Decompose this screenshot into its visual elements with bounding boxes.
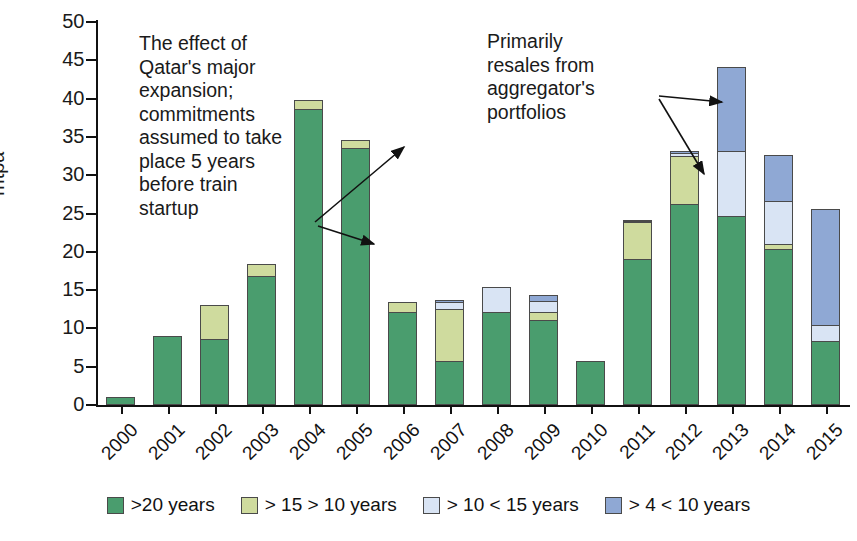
bar-segment[interactable] (717, 151, 746, 217)
bar-2012[interactable] (670, 151, 699, 405)
bar-2013[interactable] (717, 67, 746, 405)
bar-segment[interactable] (717, 216, 746, 405)
x-tick (403, 405, 405, 414)
x-tick (356, 405, 358, 414)
bar-segment[interactable] (388, 312, 417, 405)
chart-legend: >20 years> 15 > 10 years> 10 < 15 years>… (0, 494, 857, 516)
x-tick-label-2010: 2010 (560, 419, 612, 471)
stacked-bar-chart: mtpa 05101520253035404550 20002001200220… (0, 0, 857, 541)
bar-segment[interactable] (153, 336, 182, 405)
y-tick (86, 289, 97, 291)
x-tick (591, 405, 593, 414)
bar-2000[interactable] (106, 397, 135, 405)
x-tick-label-2008: 2008 (466, 419, 518, 471)
bar-segment[interactable] (576, 361, 605, 405)
y-tick (86, 404, 97, 406)
bar-segment[interactable] (247, 276, 276, 405)
x-tick-label-2006: 2006 (372, 419, 424, 471)
bar-segment[interactable] (764, 201, 793, 245)
legend-item-3[interactable]: > 4 < 10 years (605, 494, 750, 516)
y-tick (86, 251, 97, 253)
annotation-resales: Primarily resales from aggregator's port… (487, 30, 682, 124)
y-tick-label: 5 (46, 356, 84, 376)
x-tick (732, 405, 734, 414)
annotation-qatar-expansion: The effect of Qatar's major expansion; c… (139, 32, 354, 220)
bar-2006[interactable] (388, 302, 417, 405)
bar-segment[interactable] (670, 204, 699, 405)
bar-segment[interactable] (717, 67, 746, 152)
y-tick (86, 98, 97, 100)
x-tick (826, 405, 828, 414)
x-tick-label-2004: 2004 (278, 419, 330, 471)
bar-2007[interactable] (435, 300, 464, 405)
bar-2015[interactable] (811, 209, 840, 405)
x-axis-line (96, 405, 850, 407)
bar-segment[interactable] (106, 397, 135, 405)
bar-segment[interactable] (200, 339, 229, 405)
y-tick-label: 30 (46, 164, 84, 184)
bar-segment[interactable] (811, 341, 840, 405)
legend-swatch-icon (605, 497, 622, 514)
y-tick-label: 0 (46, 394, 84, 414)
bar-segment[interactable] (670, 156, 699, 206)
legend-label: > 10 < 15 years (447, 494, 579, 516)
x-tick-label-2003: 2003 (231, 419, 283, 471)
y-tick (86, 327, 97, 329)
bar-segment[interactable] (200, 305, 229, 340)
y-tick-label: 15 (46, 279, 84, 299)
x-tick (544, 405, 546, 414)
legend-item-0[interactable]: >20 years (107, 494, 215, 516)
y-tick (86, 213, 97, 215)
x-tick-label-2001: 2001 (137, 419, 189, 471)
bar-segment[interactable] (247, 264, 276, 278)
x-tick (450, 405, 452, 414)
legend-swatch-icon (423, 497, 440, 514)
x-tick-label-2011: 2011 (607, 419, 659, 471)
bar-segment[interactable] (482, 287, 511, 313)
bar-2001[interactable] (153, 336, 182, 405)
bar-segment[interactable] (811, 209, 840, 325)
x-tick-label-2009: 2009 (513, 419, 565, 471)
x-tick-label-2007: 2007 (419, 419, 471, 471)
x-tick-label-2012: 2012 (654, 419, 706, 471)
bar-segment[interactable] (435, 309, 464, 363)
y-tick-label: 25 (46, 203, 84, 223)
bar-segment[interactable] (764, 249, 793, 405)
bar-2008[interactable] (482, 287, 511, 405)
legend-swatch-icon (241, 497, 258, 514)
bar-2003[interactable] (247, 264, 276, 405)
bar-segment[interactable] (811, 325, 840, 342)
y-tick-label: 10 (46, 317, 84, 337)
x-tick-label-2014: 2014 (748, 419, 800, 471)
legend-label: > 15 > 10 years (265, 494, 397, 516)
x-tick-label-2002: 2002 (184, 419, 236, 471)
bar-2010[interactable] (576, 361, 605, 405)
x-tick-label-2005: 2005 (325, 419, 377, 471)
legend-label: >20 years (131, 494, 215, 516)
x-tick (215, 405, 217, 414)
bar-segment[interactable] (623, 259, 652, 405)
x-tick (638, 405, 640, 414)
x-tick (168, 405, 170, 414)
legend-swatch-icon (107, 497, 124, 514)
y-axis-label: mtpa (0, 152, 9, 196)
x-tick (262, 405, 264, 414)
bar-2014[interactable] (764, 155, 793, 405)
x-tick (309, 405, 311, 414)
bar-segment[interactable] (482, 312, 511, 405)
x-tick (497, 405, 499, 414)
bar-2009[interactable] (529, 295, 558, 405)
y-tick-label: 50 (46, 11, 84, 31)
legend-item-1[interactable]: > 15 > 10 years (241, 494, 397, 516)
bar-segment[interactable] (529, 320, 558, 405)
bar-segment[interactable] (764, 155, 793, 202)
y-tick (86, 174, 97, 176)
x-tick-label-2013: 2013 (701, 419, 753, 471)
bar-segment[interactable] (623, 222, 652, 260)
bar-2011[interactable] (623, 220, 652, 405)
x-tick (121, 405, 123, 414)
legend-item-2[interactable]: > 10 < 15 years (423, 494, 579, 516)
bar-segment[interactable] (435, 361, 464, 405)
y-tick-label: 20 (46, 241, 84, 261)
bar-2002[interactable] (200, 305, 229, 405)
